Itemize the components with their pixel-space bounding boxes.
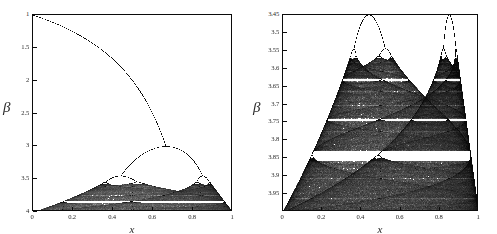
x-tick-label: 0.8 bbox=[435, 214, 443, 221]
x-tick-mark bbox=[72, 207, 73, 211]
x-tick-label: 0.6 bbox=[148, 214, 156, 221]
y-tick-label: 3.75 bbox=[268, 118, 279, 125]
y-tick-label: 3.45 bbox=[268, 11, 279, 18]
x-tick-label: 0.6 bbox=[396, 214, 404, 221]
y-tick-label: 3.55 bbox=[268, 47, 279, 54]
bifurcation-canvas-left bbox=[33, 15, 232, 211]
y-tick-mark bbox=[283, 68, 287, 69]
panel-right-zoomed: 3.453.53.553.63.653.73.753.83.853.93.95 … bbox=[249, 0, 497, 234]
y-tick-mark bbox=[33, 211, 37, 212]
y-tick-mark bbox=[283, 14, 287, 15]
x-tick-mark bbox=[360, 207, 361, 211]
y-tick-mark bbox=[33, 145, 37, 146]
x-tick-label: 0 bbox=[30, 214, 33, 221]
y-tick-mark bbox=[283, 121, 287, 122]
x-tick-mark bbox=[439, 207, 440, 211]
x-tick-mark bbox=[321, 207, 322, 211]
x-tick-label: 0.2 bbox=[317, 214, 325, 221]
x-tick-label: 1 bbox=[476, 214, 479, 221]
y-axis-title-right: β bbox=[253, 98, 260, 115]
y-tick-label: 2 bbox=[26, 76, 29, 83]
x-tick-mark bbox=[32, 207, 33, 211]
y-tick-mark bbox=[283, 86, 287, 87]
x-tick-label: 0.8 bbox=[188, 214, 196, 221]
x-tick-label: 0.2 bbox=[68, 214, 76, 221]
y-tick-label: 2.5 bbox=[21, 109, 29, 116]
y-tick-mark bbox=[33, 113, 37, 114]
y-tick-mark bbox=[33, 80, 37, 81]
x-tick-mark bbox=[152, 207, 153, 211]
y-axis-title-left: β bbox=[3, 98, 10, 115]
y-tick-label: 1.5 bbox=[21, 44, 29, 51]
y-tick-label: 3.9 bbox=[271, 172, 279, 179]
y-tick-label: 3.6 bbox=[271, 64, 279, 71]
y-tick-mark bbox=[283, 175, 287, 176]
y-tick-mark bbox=[283, 139, 287, 140]
plot-frame-left bbox=[32, 14, 232, 211]
panel-left-full-range: 11.522.533.54 00.20.40.60.81 β x bbox=[0, 0, 248, 234]
y-tick-label: 4 bbox=[26, 208, 29, 215]
y-tick-mark bbox=[283, 32, 287, 33]
x-tick-mark bbox=[477, 207, 478, 211]
x-tick-mark bbox=[192, 207, 193, 211]
x-tick-label: 0.4 bbox=[357, 214, 365, 221]
y-tick-label: 3.85 bbox=[268, 154, 279, 161]
y-tick-label: 3.8 bbox=[271, 136, 279, 143]
y-tick-label: 3.65 bbox=[268, 82, 279, 89]
x-axis-title-left: x bbox=[130, 223, 135, 234]
y-tick-mark bbox=[33, 14, 37, 15]
y-tick-mark bbox=[283, 193, 287, 194]
y-tick-mark bbox=[33, 47, 37, 48]
y-tick-mark bbox=[33, 178, 37, 179]
bifurcation-canvas-right bbox=[283, 15, 478, 211]
y-tick-mark bbox=[283, 50, 287, 51]
y-tick-label: 3 bbox=[26, 142, 29, 149]
y-tick-label: 3.5 bbox=[21, 175, 29, 182]
y-tick-label: 3.95 bbox=[268, 190, 279, 197]
x-tick-mark bbox=[231, 207, 232, 211]
x-tick-mark bbox=[282, 207, 283, 211]
x-tick-mark bbox=[400, 207, 401, 211]
x-tick-label: 1 bbox=[230, 214, 233, 221]
y-tick-mark bbox=[283, 157, 287, 158]
y-tick-mark bbox=[283, 104, 287, 105]
y-tick-label: 1 bbox=[26, 11, 29, 18]
x-tick-mark bbox=[112, 207, 113, 211]
x-axis-title-right: x bbox=[378, 223, 383, 234]
bifurcation-figure: 11.522.533.54 00.20.40.60.81 β x 3.453.5… bbox=[0, 0, 497, 234]
plot-frame-right bbox=[282, 14, 478, 211]
y-tick-label: 3.5 bbox=[271, 29, 279, 36]
y-tick-label: 3.7 bbox=[271, 100, 279, 107]
x-tick-label: 0 bbox=[280, 214, 283, 221]
x-tick-label: 0.4 bbox=[108, 214, 116, 221]
